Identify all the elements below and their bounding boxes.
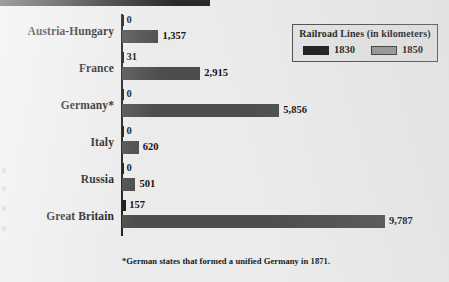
bar-1830: [122, 126, 124, 137]
bar-value-1830: 0: [127, 14, 132, 25]
bar-1850: [122, 215, 385, 228]
legend-title: Railroad Lines (in kilometers): [293, 28, 437, 39]
category-label: Austria-Hungary: [0, 25, 114, 37]
bar-1850: [122, 178, 135, 191]
top-rule-divider: [0, 0, 210, 6]
bar-value-1850: 9,787: [389, 215, 413, 226]
legend-swatch-1830: [303, 46, 329, 55]
bar-1850: [122, 30, 158, 43]
bar-value-1850: 5,856: [283, 104, 307, 115]
chart-footnote: *German states that formed a unified Ger…: [122, 256, 330, 266]
bar-value-1830: 157: [129, 199, 145, 210]
bar-1830: [122, 89, 124, 100]
bar-1850: [122, 104, 279, 117]
bar-value-1830: 31: [127, 51, 138, 62]
chart-row: Italy0620: [0, 125, 449, 162]
chart-page: Austria-Hungary01,357France312,915German…: [0, 0, 449, 282]
chart-row: Great Britain1579,787: [0, 199, 449, 236]
bar-value-1830: 0: [127, 162, 132, 173]
legend-label-1850: 1850: [402, 44, 423, 55]
bar-value-1830: 0: [127, 88, 132, 99]
category-label: France: [0, 62, 114, 74]
bar-1850: [122, 67, 200, 80]
bar-value-1850: 501: [139, 178, 155, 189]
bar-1830: [122, 163, 124, 174]
bar-1830: [122, 15, 124, 26]
legend-swatch-1850: [371, 46, 397, 55]
bar-1830: [122, 52, 124, 63]
category-label: Russia: [0, 173, 114, 185]
bar-value-1850: 620: [143, 141, 159, 152]
chart-row: Russia0501: [0, 162, 449, 199]
chart-row: Germany*05,856: [0, 88, 449, 125]
legend-label-1830: 1830: [334, 44, 355, 55]
bar-value-1850: 2,915: [204, 67, 228, 78]
bar-1850: [122, 141, 139, 154]
bar-1830: [122, 200, 126, 211]
bar-value-1850: 1,357: [162, 30, 186, 41]
chart-legend: Railroad Lines (in kilometers) 1830 1850: [292, 24, 438, 62]
category-label: Germany*: [0, 99, 114, 111]
category-label: Great Britain: [0, 210, 114, 222]
bar-value-1830: 0: [127, 125, 132, 136]
category-label: Italy: [0, 136, 114, 148]
